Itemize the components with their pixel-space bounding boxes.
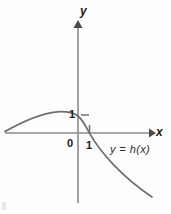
y-axis-label: y [80,5,87,17]
scan-artifact [2,202,6,210]
x-axis-arrowhead [149,129,156,138]
origin-label-0: 0 [67,138,73,149]
x-axis-label: x [156,126,163,138]
figure-container: y x 1 0 1 y = h(x) [0,0,171,214]
function-equation-label: y = h(x) [110,144,150,155]
y-axis-arrowhead [74,20,83,28]
y-axis-tick-label-1: 1 [69,109,75,120]
coordinate-plane-svg [0,0,171,214]
x-axis-tick-label-1: 1 [86,140,92,151]
